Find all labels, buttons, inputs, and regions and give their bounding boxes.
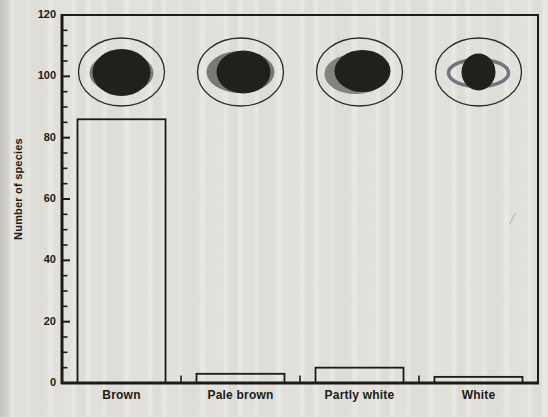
brown-egg-icon: [79, 38, 165, 106]
scanned-bar-chart-figure: Number of species 020406080100120 BrownP…: [0, 0, 548, 417]
x-category-label-partly-white: Partly white: [300, 388, 420, 402]
bar-brown: [78, 119, 166, 383]
bar-partly-white: [316, 368, 404, 383]
white-egg-icon: [436, 38, 522, 106]
bar-chart-plot: [0, 0, 548, 417]
x-category-label-white: White: [419, 388, 539, 402]
partly-white-egg-icon: [317, 38, 403, 106]
x-category-label-pale-brown: Pale brown: [181, 388, 301, 402]
pale-brown-egg-icon: [198, 38, 284, 106]
x-category-label-brown: Brown: [62, 388, 182, 402]
